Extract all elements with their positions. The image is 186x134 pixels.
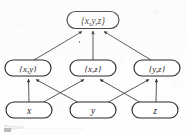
node-y-label: y: [90, 106, 96, 116]
node-xy-label: {x,y}: [19, 64, 37, 74]
edge-y-to-xy: [36, 80, 81, 105]
node-z[interactable]: z: [132, 102, 178, 118]
edge-group-bottom-to-middle: [29, 79, 157, 104]
edge-x-to-xy: [29, 79, 30, 102]
node-xz[interactable]: {x,z}: [70, 60, 116, 76]
node-z-label: z: [152, 106, 157, 116]
node-yz[interactable]: {y,z}: [134, 60, 180, 76]
caption-leader-mark: [4, 128, 11, 132]
edge-z-to-xz: [100, 80, 143, 105]
edge-y-to-yz: [105, 80, 149, 105]
node-yz-label: {y,z}: [149, 64, 166, 74]
node-y[interactable]: y: [70, 102, 116, 118]
edge-group-middle-to-top: [34, 31, 151, 60]
node-xz-label: {x,z}: [85, 64, 102, 74]
figure-caption-text: Figure . . . . . . . . . . . . . . .: [4, 124, 82, 131]
node-x[interactable]: x: [6, 102, 52, 118]
node-xy[interactable]: {x,y}: [5, 60, 51, 76]
lattice-diagram-canvas: {x,y,z} {x,y} {x,z} {y,z} x y z: [0, 0, 186, 134]
node-xyz[interactable]: {x,y,z}: [67, 12, 119, 29]
edge-xy-to-xyz: [34, 32, 82, 61]
edge-x-to-xz: [40, 80, 84, 105]
edge-yz-to-xyz: [104, 32, 151, 61]
node-xyz-label: {x,y,z}: [81, 16, 105, 26]
node-x-label: x: [26, 106, 32, 116]
edge-z-to-yz: [156, 79, 157, 102]
scan-speck: [79, 41, 80, 43]
figure-caption-strip: Figure . . . . . . . . . . . . . . .: [0, 124, 186, 134]
subset-lattice-figure: {x,y,z} {x,y} {x,z} {y,z} x y z: [0, 0, 186, 134]
